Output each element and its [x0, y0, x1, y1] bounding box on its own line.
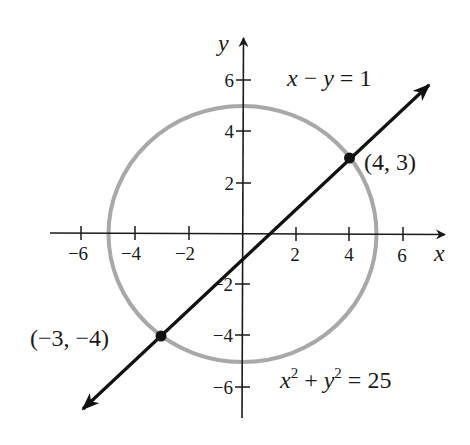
y-tick-label: 2 [225, 173, 235, 194]
x-tick-label: 6 [397, 245, 407, 266]
x-tick-label: −6 [68, 243, 88, 264]
intersection-point-4-3 [344, 153, 355, 164]
line-equation-label: x − y = 1 [286, 65, 371, 91]
y-axis-label: y [216, 30, 229, 56]
x-tick-label: 2 [290, 244, 300, 265]
y-tick-label: −6 [213, 377, 233, 398]
x-tick-label: −2 [175, 243, 195, 264]
point-label-4-3: (4, 3) [364, 149, 416, 175]
y-tick-label: −4 [213, 325, 234, 346]
point-label-neg3-neg4: (−3, −4) [30, 325, 109, 351]
intersection-point-neg3-neg4 [156, 331, 167, 342]
coordinate-plane: −6 −4 −2 2 4 6 6 4 2 −2 −4 −6 x y (4, 3)… [0, 0, 470, 445]
circle-equation-label: x2 + y2 = 25 [279, 365, 391, 393]
y-tick-label: 6 [225, 70, 235, 91]
y-tick-label: 4 [225, 121, 235, 142]
x-tick-label: −4 [121, 243, 142, 264]
x-tick-label: 4 [344, 244, 354, 265]
x-axis-label: x [433, 240, 445, 266]
